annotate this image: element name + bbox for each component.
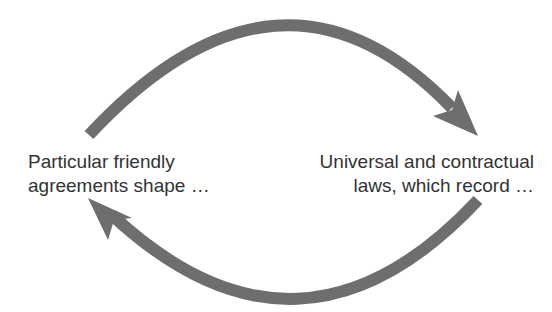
- right-node-label: Universal and contractual laws, which re…: [320, 150, 534, 198]
- right-node-line-2: laws, which record …: [320, 174, 534, 198]
- bottom-arrow-shaft: [112, 200, 478, 299]
- right-node-line-1: Universal and contractual: [320, 150, 534, 174]
- left-node-line-1: Particular friendly: [28, 150, 210, 174]
- top-arrow: [89, 25, 478, 136]
- bottom-arrow: [88, 198, 478, 299]
- left-node-label: Particular friendly agreements shape …: [28, 150, 210, 198]
- top-arrow-shaft: [89, 25, 452, 135]
- left-node-line-2: agreements shape …: [28, 174, 210, 198]
